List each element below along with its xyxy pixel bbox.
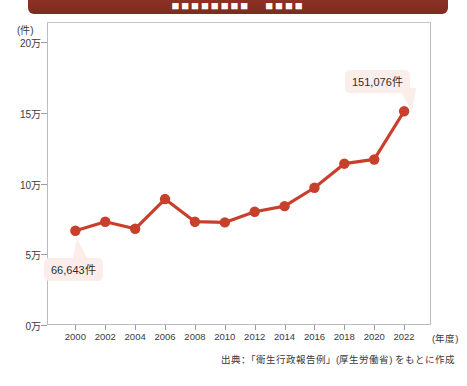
x-tick-label: 2020 <box>364 331 385 342</box>
x-tick-mark <box>344 325 345 330</box>
x-tick-label: 2000 <box>65 331 86 342</box>
y-tick-label: 5万 <box>25 247 41 262</box>
x-tick-label: 2002 <box>95 331 116 342</box>
x-tick-label: 2016 <box>304 331 325 342</box>
y-tick-mark <box>41 184 47 185</box>
x-axis-unit-label: (年度) <box>432 331 458 345</box>
y-axis-labels: 20万 15万 10万 5万 0万 <box>0 0 41 386</box>
y-tick-mark <box>41 113 47 114</box>
x-tick-label: 2008 <box>184 331 205 342</box>
x-tick-mark <box>105 325 106 330</box>
x-tick-label: 2018 <box>334 331 355 342</box>
x-tick-mark <box>225 325 226 330</box>
x-tick-label: 2010 <box>214 331 235 342</box>
y-tick-mark <box>41 254 47 255</box>
plot-area <box>47 22 431 325</box>
y-tick-mark <box>41 325 47 326</box>
data-label-first: 66,643件 <box>44 258 103 281</box>
y-tick-label: 10万 <box>20 177 41 192</box>
source-note: 出典：「衛生行政報告例」(厚生労働省) をもとに作成 <box>0 352 455 366</box>
x-tick-mark <box>374 325 375 330</box>
y-tick-label: 20万 <box>20 35 41 50</box>
x-tick-label: 2012 <box>244 331 265 342</box>
y-tick-label: 15万 <box>20 106 41 121</box>
x-tick-mark <box>195 325 196 330</box>
data-label-last: 151,076件 <box>345 70 410 93</box>
x-tick-mark <box>314 325 315 330</box>
x-tick-mark <box>255 325 256 330</box>
x-tick-label: 2022 <box>394 331 415 342</box>
x-tick-label: 2004 <box>125 331 146 342</box>
x-tick-label: 2006 <box>154 331 175 342</box>
y-tick-mark <box>41 42 47 43</box>
x-tick-mark <box>135 325 136 330</box>
y-tick-label: 0万 <box>25 318 41 333</box>
x-tick-mark <box>165 325 166 330</box>
x-tick-mark <box>404 325 405 330</box>
x-tick-mark <box>75 325 76 330</box>
line-chart: (件) 20万 15万 10万 5万 0万 200020022004200620… <box>0 0 467 386</box>
x-tick-label: 2014 <box>274 331 295 342</box>
x-tick-mark <box>285 325 286 330</box>
